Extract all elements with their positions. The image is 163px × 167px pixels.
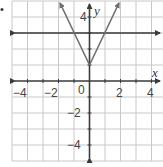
origin-label: 0 (78, 83, 85, 97)
x-axis-label: x (151, 65, 158, 80)
y-tick-neg4: −4 (67, 138, 81, 152)
coordinate-graph: y x 4 −4 −2 0 2 4 −2 −4 (0, 0, 163, 167)
x-tick-4: 4 (147, 86, 154, 100)
y-tick-4: 4 (80, 10, 87, 24)
x-tick-neg4: −4 (13, 86, 27, 100)
x-tick-2: 2 (116, 86, 123, 100)
x-tick-neg2: −2 (44, 86, 58, 100)
y-tick-neg2: −2 (67, 106, 81, 120)
y-axis-label: y (92, 3, 100, 18)
x-axis (15, 79, 160, 83)
